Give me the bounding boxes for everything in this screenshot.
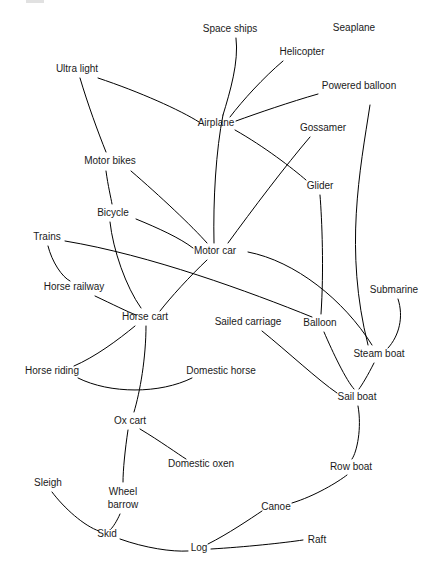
node-label-sailed_carriage[interactable]: Sailed carriage bbox=[215, 316, 282, 327]
edge-ox_cart-to-wheel_barrow bbox=[123, 430, 128, 482]
edge-trains-to-horse_railway bbox=[48, 246, 70, 281]
edge-balloon-to-glider bbox=[320, 195, 323, 314]
node-label-wheel_barrow[interactable]: Wheelbarrow bbox=[108, 486, 139, 510]
node-label-log[interactable]: Log bbox=[191, 542, 208, 553]
node-label-ultra_light[interactable]: Ultra light bbox=[56, 63, 98, 74]
node-label-horse_riding[interactable]: Horse riding bbox=[25, 365, 79, 376]
edge-space_ships-to-motor_car bbox=[214, 115, 223, 243]
node-label-skid[interactable]: Skid bbox=[97, 528, 116, 539]
node-label-domestic_horse[interactable]: Domestic horse bbox=[186, 365, 256, 376]
edge-log-to-raft bbox=[211, 540, 303, 549]
edge-bicycle-to-motor_car bbox=[136, 219, 193, 248]
node-label-domestic_oxen[interactable]: Domestic oxen bbox=[168, 458, 234, 469]
edge-gossamer-to-motor_car bbox=[228, 137, 310, 243]
node-label-trains[interactable]: Trains bbox=[33, 231, 60, 242]
edge-ultra_light-to-airplane bbox=[98, 78, 199, 122]
edge-balloon-to-sail_boat bbox=[324, 332, 354, 389]
node-label-sleigh[interactable]: Sleigh bbox=[34, 477, 62, 488]
edge-powered_balloon-to-airplane bbox=[236, 94, 318, 121]
edge-motor_bikes-to-motor_car bbox=[131, 171, 207, 243]
edge-motor_car-to-steam_boat bbox=[248, 252, 372, 345]
node-label-sail_boat[interactable]: Sail boat bbox=[338, 391, 377, 402]
edge-canoe-to-row_boat bbox=[292, 475, 347, 503]
node-label-bicycle[interactable]: Bicycle bbox=[97, 207, 129, 218]
edge-steam_boat-to-sail_boat bbox=[359, 363, 374, 389]
node-label-ox_cart[interactable]: Ox cart bbox=[114, 415, 146, 426]
edge-trains-to-balloon bbox=[65, 241, 312, 317]
edge-submarine-to-steam_boat bbox=[388, 299, 401, 348]
edge-horse_cart-to-ox_cart bbox=[134, 326, 146, 412]
edge-seaplane-to-steam_boat bbox=[355, 105, 370, 345]
network-graph-canvas: Space shipsSeaplaneHelicopterUltra light… bbox=[0, 0, 441, 579]
edge-ultra_light-to-motor_bikes bbox=[80, 78, 106, 152]
edge-horse_riding-to-domestic_horse bbox=[78, 378, 192, 390]
node-label-gossamer[interactable]: Gossamer bbox=[300, 122, 347, 133]
node-label-raft[interactable]: Raft bbox=[308, 534, 327, 545]
node-label-airplane[interactable]: Airplane bbox=[198, 117, 235, 128]
node-label-horse_railway[interactable]: Horse railway bbox=[44, 281, 105, 292]
transport-evolution-diagram: Space shipsSeaplaneHelicopterUltra light… bbox=[0, 0, 441, 579]
node-label-balloon[interactable]: Balloon bbox=[303, 317, 336, 328]
node-label-canoe[interactable]: Canoe bbox=[261, 501, 291, 512]
edges-layer bbox=[48, 38, 401, 551]
node-label-powered_balloon[interactable]: Powered balloon bbox=[322, 80, 397, 91]
nodes-layer: Space shipsSeaplaneHelicopterUltra light… bbox=[25, 22, 419, 553]
node-label-row_boat[interactable]: Row boat bbox=[330, 461, 372, 472]
node-label-space_ships[interactable]: Space ships bbox=[203, 23, 257, 34]
node-label-steam_boat[interactable]: Steam boat bbox=[353, 348, 404, 359]
node-label-motor_bikes[interactable]: Motor bikes bbox=[84, 155, 136, 166]
edge-sail_boat-to-row_boat bbox=[352, 406, 359, 459]
node-label-helicopter[interactable]: Helicopter bbox=[279, 46, 325, 57]
edge-motor_car-to-horse_cart bbox=[160, 260, 207, 311]
edge-space_ships-to-airplane bbox=[223, 38, 237, 115]
node-label-seaplane[interactable]: Seaplane bbox=[333, 22, 376, 33]
node-label-motor_car[interactable]: Motor car bbox=[194, 245, 237, 256]
node-label-submarine[interactable]: Submarine bbox=[370, 284, 419, 295]
edge-ox_cart-to-domestic_oxen bbox=[140, 429, 186, 459]
edge-sleigh-to-skid bbox=[52, 492, 99, 531]
edge-bicycle-to-horse_cart bbox=[110, 222, 141, 308]
node-label-glider[interactable]: Glider bbox=[307, 180, 334, 191]
node-label-horse_cart[interactable]: Horse cart bbox=[122, 311, 168, 322]
edge-helicopter-to-airplane bbox=[230, 61, 283, 117]
edge-horse_cart-to-horse_riding bbox=[74, 326, 135, 366]
edge-skid-to-log bbox=[120, 539, 188, 551]
edge-sailed_carriage-to-sail_boat bbox=[262, 331, 337, 393]
edge-log-to-canoe bbox=[208, 511, 262, 544]
edge-motor_bikes-to-bicycle bbox=[106, 171, 112, 204]
